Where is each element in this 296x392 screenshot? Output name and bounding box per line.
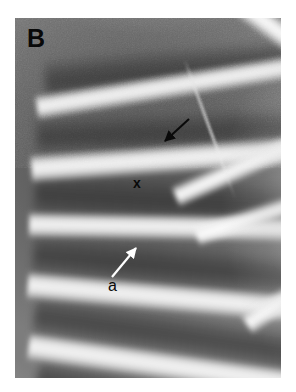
panel-letter-b: B (27, 26, 45, 51)
x-marker: x (133, 176, 141, 190)
exposure-vignette-layer (15, 18, 281, 378)
radiograph-plate (15, 18, 281, 378)
a-marker: a (108, 278, 117, 294)
radiograph-figure: B x a (0, 0, 296, 392)
